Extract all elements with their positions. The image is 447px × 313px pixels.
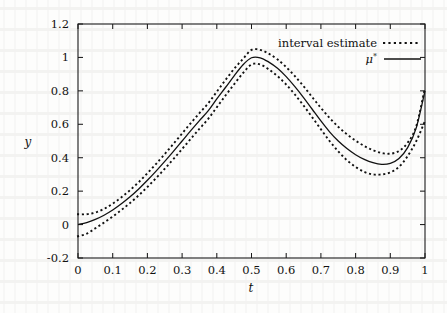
series-mu-star (78, 57, 425, 225)
series-interval-lower (78, 64, 425, 237)
x-tick-label: 0 (74, 263, 81, 277)
y-axis-title: y (24, 135, 32, 149)
x-tick-label: 1 (421, 263, 428, 277)
line-chart: 00.10.20.30.40.50.60.70.80.91 -0.200.20.… (0, 0, 447, 313)
y-tick-label: 0.4 (51, 151, 69, 165)
x-tick-label: 0.5 (242, 263, 260, 277)
y-tick-label: -0.2 (47, 251, 69, 265)
x-tick-label: 0.8 (346, 263, 364, 277)
y-tick-label: 0.2 (51, 184, 69, 198)
x-tick-label: 0.7 (312, 263, 330, 277)
x-tick-label: 0.1 (104, 263, 122, 277)
y-tick-label: 1 (62, 50, 69, 64)
x-tick-label: 0.9 (381, 263, 399, 277)
figure-container: 00.10.20.30.40.50.60.70.80.91 -0.200.20.… (0, 0, 447, 313)
x-axis-tick-labels: 00.10.20.30.40.50.60.70.80.91 (74, 263, 428, 277)
legend-item-interval-estimate-label: interval estimate (278, 36, 377, 50)
legend-item-mu-star-label: μ* (366, 52, 377, 67)
y-tick-label: 0 (62, 218, 69, 232)
x-tick-label: 0.2 (138, 263, 156, 277)
y-axis-tick-labels: -0.200.20.40.60.811.2 (47, 17, 69, 265)
data-series-group (78, 49, 425, 236)
x-tick-label: 0.6 (277, 263, 295, 277)
series-interval-upper (78, 49, 425, 214)
x-tick-label: 0.4 (208, 263, 226, 277)
y-tick-label: 1.2 (51, 17, 69, 31)
x-axis-title: t (249, 281, 254, 295)
y-tick-label: 0.6 (51, 117, 69, 131)
x-tick-label: 0.3 (173, 263, 191, 277)
legend: interval estimate μ* (278, 36, 421, 66)
y-tick-label: 0.8 (51, 84, 69, 98)
